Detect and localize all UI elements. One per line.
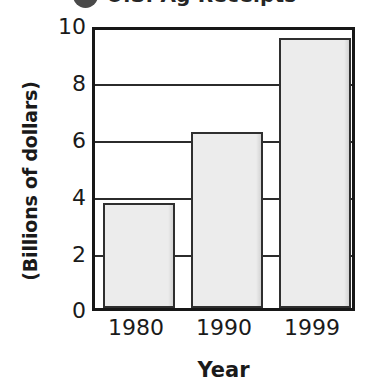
plot-area <box>92 27 355 311</box>
bar-chart: U.S. Ag Receipts (Billions of dollars) 1… <box>0 0 369 389</box>
y-tick-label-6: 6 <box>44 130 86 152</box>
y-axis-label: (Billions of dollars) <box>19 41 41 321</box>
x-axis-label: Year <box>92 358 355 382</box>
x-tick-label-1990: 1990 <box>180 316 268 340</box>
x-axis-ticks: 1980 1990 1999 <box>92 316 355 346</box>
y-tick-label-8: 8 <box>44 73 86 95</box>
y-tick-label-10: 10 <box>44 16 86 38</box>
bar-1990 <box>191 132 263 308</box>
y-axis-ticks: 10 8 6 4 2 0 <box>44 0 86 389</box>
x-tick-label-1999: 1999 <box>268 316 356 340</box>
y-tick-label-4: 4 <box>44 187 86 209</box>
y-tick-label-2: 2 <box>44 244 86 266</box>
bar-1980 <box>103 203 175 308</box>
y-tick-label-0: 0 <box>44 300 86 322</box>
bar-1999 <box>279 38 351 308</box>
chart-title-text: U.S. Ag Receipts <box>107 0 297 7</box>
bar-series <box>95 30 352 308</box>
x-tick-label-1980: 1980 <box>92 316 180 340</box>
